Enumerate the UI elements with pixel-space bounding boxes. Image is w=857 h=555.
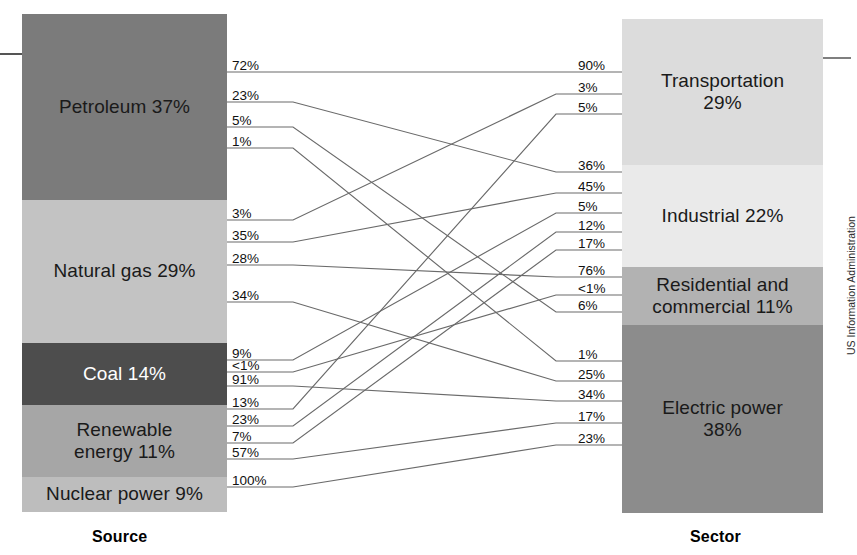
source-caption: Source: [92, 528, 147, 546]
flow-line-nuclear_electric: [227, 445, 622, 487]
sector-segment-residential[interactable]: Residential andcommercial 11%: [622, 267, 823, 325]
sector-column: Transportation29%Industrial 22%Residenti…: [622, 19, 823, 513]
flow-pct-renewable_electric: 57%: [232, 446, 259, 460]
flow-pct-industrial_coal: 5%: [578, 200, 598, 214]
flow-line-gas_electric: [227, 302, 622, 381]
flow-pct-residential_gas: 76%: [578, 264, 605, 278]
flow-line-coal_electric: [227, 386, 622, 401]
flow-pct-gas_electric: 34%: [232, 289, 259, 303]
flow-pct-industrial_gas: 45%: [578, 180, 605, 194]
flow-line-gas_residential: [227, 265, 622, 277]
flow-pct-electric_nuclear: 23%: [578, 432, 605, 446]
flow-pct-industrial_renewable: 12%: [578, 219, 605, 233]
flow-line-petroleum_residential: [227, 127, 622, 312]
flow-line-renewable_residential: [227, 250, 622, 443]
flow-line-gas_transportation: [227, 94, 622, 220]
flow-line-renewable_transportation: [227, 114, 622, 409]
flow-pct-coal_residential: <1%: [232, 359, 259, 373]
flow-pct-transportation_gas: 3%: [578, 81, 598, 95]
source-segment-natural_gas[interactable]: Natural gas 29%: [22, 200, 227, 343]
sector-segment-electric[interactable]: Electric power38%: [622, 325, 823, 513]
source-segment-label-coal: Coal 14%: [83, 363, 166, 385]
flow-pct-industrial_electric_retail: 17%: [578, 237, 605, 251]
flow-pct-renewable_residential: 7%: [232, 430, 252, 444]
source-segment-label-nuclear: Nuclear power 9%: [46, 483, 203, 505]
flow-pct-renewable_industrial: 23%: [232, 413, 259, 427]
flow-line-coal_industrial: [227, 213, 622, 360]
flow-pct-petroleum_industrial: 23%: [232, 89, 259, 103]
source-segment-label-petroleum: Petroleum 37%: [59, 96, 190, 118]
source-column: Petroleum 37%Natural gas 29%Coal 14%Rene…: [22, 14, 227, 512]
sector-segment-label-transportation: Transportation29%: [661, 70, 784, 115]
source-segment-label-natural_gas: Natural gas 29%: [54, 260, 196, 282]
flow-pct-electric_coal: 34%: [578, 388, 605, 402]
sector-segment-industrial[interactable]: Industrial 22%: [622, 165, 823, 267]
source-segment-label-renewable: Renewableenergy 11%: [74, 419, 175, 464]
source-segment-renewable[interactable]: Renewableenergy 11%: [22, 405, 227, 477]
flow-pct-transportation_petroleum: 90%: [578, 59, 605, 73]
flow-line-gas_industrial: [227, 193, 622, 242]
flow-pct-electric_renewable: 17%: [578, 410, 605, 424]
flow-pct-petroleum_electric: 1%: [232, 135, 252, 149]
sector-segment-label-industrial: Industrial 22%: [662, 205, 784, 227]
flow-pct-nuclear_electric: 100%: [232, 474, 267, 488]
source-credit: US Information Administration: [845, 216, 857, 355]
flow-pct-electric_gas: 25%: [578, 368, 605, 382]
flow-pct-residential_petroleum: 6%: [578, 299, 598, 313]
flow-pct-gas_industrial: 35%: [232, 229, 259, 243]
flow-pct-electric_petroleum: 1%: [578, 348, 598, 362]
flow-line-renewable_industrial: [227, 232, 622, 426]
flow-line-petroleum_industrial: [227, 102, 622, 172]
sector-segment-label-residential: Residential andcommercial 11%: [652, 274, 792, 319]
flow-line-coal_residential: [227, 295, 622, 372]
sector-segment-label-electric: Electric power38%: [662, 397, 783, 442]
source-segment-petroleum[interactable]: Petroleum 37%: [22, 14, 227, 200]
flow-pct-transportation_renewable: 5%: [578, 101, 598, 115]
flow-pct-renewable_transportation: 13%: [232, 396, 259, 410]
flow-pct-gas_residential: 28%: [232, 252, 259, 266]
flow-pct-gas_transportation: 3%: [232, 207, 252, 221]
flow-line-petroleum_electric: [227, 148, 622, 361]
flow-pct-petroleum_transportation: 72%: [232, 59, 259, 73]
sector-segment-transportation[interactable]: Transportation29%: [622, 19, 823, 165]
flow-pct-residential_coal: <1%: [578, 282, 605, 296]
flow-pct-petroleum_residential: 5%: [232, 114, 252, 128]
sector-caption: Sector: [690, 528, 741, 546]
flow-line-renewable_electric: [227, 423, 622, 459]
source-segment-nuclear[interactable]: Nuclear power 9%: [22, 477, 227, 512]
flow-pct-coal_electric: 91%: [232, 373, 259, 387]
flow-pct-industrial_petroleum: 36%: [578, 159, 605, 173]
source-segment-coal[interactable]: Coal 14%: [22, 343, 227, 405]
